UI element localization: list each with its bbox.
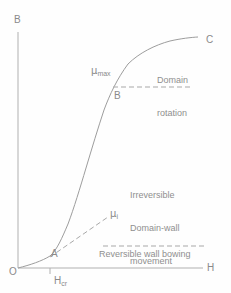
point-label-a: A — [51, 248, 58, 259]
mu-i-subscript: i — [116, 213, 118, 220]
domain-rotation-line-2: rotation — [157, 108, 188, 119]
region-reversible-bowing: Reversible wall bowing — [99, 249, 191, 260]
x-axis-label: H — [207, 262, 214, 273]
mu-i-label: μi — [110, 208, 118, 220]
point-label-c: C — [206, 34, 213, 45]
y-axis-label: B — [14, 14, 21, 25]
region-domain-rotation: Domain rotation — [157, 53, 188, 141]
mu-max-label: μmax — [91, 65, 111, 77]
region-irreversible-movement: Irreversible Domain-wall movement — [130, 168, 180, 289]
irreversible-line-2: Domain-wall — [130, 223, 180, 234]
irreversible-line-1: Irreversible — [130, 190, 180, 201]
domain-rotation-line-1: Domain — [157, 75, 188, 86]
hcr-subscript: cr — [61, 280, 67, 287]
point-label-b: B — [114, 90, 121, 101]
origin-label: O — [9, 266, 17, 277]
magnetization-curve-figure: B H O Hcr C B A μmax μi Domain rotation … — [0, 0, 231, 293]
mu-max-subscript: max — [97, 70, 110, 77]
hcr-tick-label: Hcr — [54, 275, 67, 287]
